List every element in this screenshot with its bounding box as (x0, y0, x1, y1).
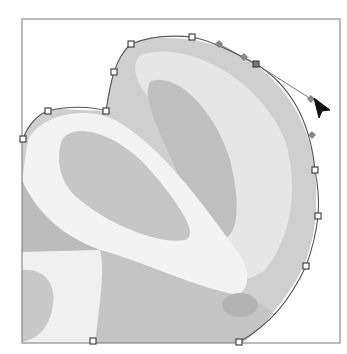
anchor-point[interactable] (236, 339, 242, 345)
anchor-point[interactable] (312, 167, 318, 173)
anchor-point[interactable] (103, 108, 109, 114)
anchor-point[interactable] (20, 136, 26, 142)
anchor-point[interactable] (90, 338, 96, 344)
anchor-point[interactable] (303, 263, 309, 269)
anchor-point[interactable] (45, 108, 51, 114)
anchor-point[interactable] (111, 69, 117, 75)
anchor-point[interactable] (315, 213, 321, 219)
anchor-point[interactable] (128, 41, 134, 47)
fruit-photo (22, 19, 340, 345)
anchor-point[interactable] (189, 34, 195, 40)
anchor-point-selected[interactable] (253, 61, 259, 67)
canvas[interactable] (0, 0, 347, 354)
